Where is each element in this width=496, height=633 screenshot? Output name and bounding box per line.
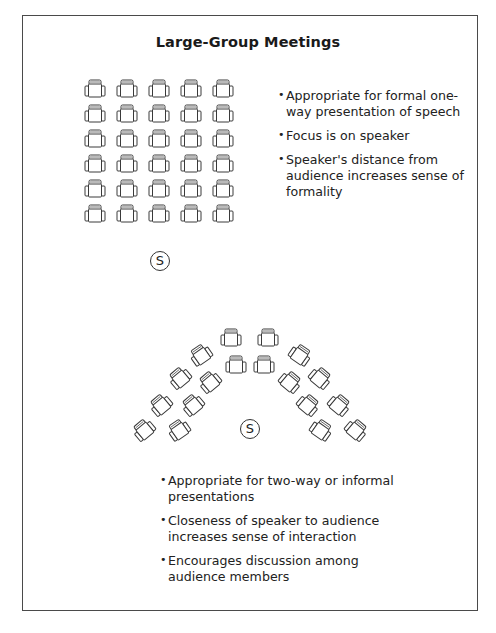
bullet-item: Encourages discussion among audience mem… xyxy=(160,553,420,585)
bullet-item: Closeness of speaker to audience increas… xyxy=(160,513,420,545)
semicircle-bullets: Appropriate for two-way or informal pres… xyxy=(160,473,420,593)
bullet-item: Speaker's distance from audience increas… xyxy=(278,152,478,200)
bullet-item: Focus is on speaker xyxy=(278,128,478,144)
classroom-bullets: Appropriate for formal one-way presentat… xyxy=(278,88,478,208)
speaker-marker-1: S xyxy=(150,251,170,271)
bullet-item: Appropriate for two-way or informal pres… xyxy=(160,473,420,505)
bullet-item: Appropriate for formal one-way presentat… xyxy=(278,88,478,120)
speaker-marker-2: S xyxy=(240,419,260,439)
grid-chairs xyxy=(85,80,233,222)
